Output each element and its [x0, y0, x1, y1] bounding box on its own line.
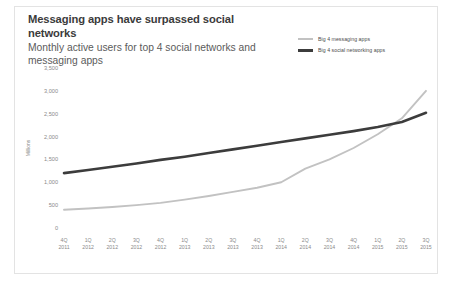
x-axis-tick-label: 4Q [157, 237, 164, 243]
y-axis-tick-label: 1,000 [44, 179, 58, 185]
chart-legend: Big 4 messaging appsBig 4 social network… [298, 36, 385, 53]
legend-item: Big 4 social networking apps [298, 47, 385, 53]
chart-title: Messaging apps have surpassed social net… [28, 12, 278, 40]
y-axis-tick-label: 1,500 [44, 156, 58, 162]
series-line [64, 113, 426, 173]
x-axis-tick-label: 4Q [350, 237, 357, 243]
legend-label: Big 4 messaging apps [318, 36, 370, 42]
x-axis-tick-label: 2015 [420, 244, 432, 250]
x-axis-tick-label: 2014 [324, 244, 336, 250]
x-axis-tick-label: 2014 [275, 244, 287, 250]
x-axis-tick-label: 1Q [181, 237, 188, 243]
series-line [64, 91, 426, 210]
x-axis-tick-label: 2013 [203, 244, 215, 250]
y-axis-tick-label: 500 [49, 202, 58, 208]
x-axis-tick-label: 2Q [109, 237, 116, 243]
line-chart-svg: 05001,0001,5002,0002,5003,0003,500Millio… [14, 60, 438, 274]
x-axis-tick-label: 2015 [396, 244, 408, 250]
legend-label: Big 4 social networking apps [318, 47, 385, 53]
chart-card: Messaging apps have surpassed social net… [0, 0, 450, 286]
legend-item: Big 4 messaging apps [298, 36, 385, 42]
y-axis-tick-label: 3,000 [44, 88, 58, 94]
x-axis-tick-label: 2Q [398, 237, 405, 243]
x-axis-tick-label: 2014 [348, 244, 360, 250]
x-axis-tick-label: 2011 [58, 244, 69, 250]
x-axis-tick-label: 2013 [251, 244, 263, 250]
legend-swatch-icon [298, 49, 313, 52]
x-axis-tick-label: 3Q [229, 237, 236, 243]
x-axis-tick-label: 2015 [372, 244, 384, 250]
x-axis-tick-label: 2Q [302, 237, 309, 243]
y-axis-tick-label: 0 [55, 225, 58, 231]
x-axis-tick-label: 2012 [106, 244, 118, 250]
x-axis-tick-label: 2012 [155, 244, 167, 250]
y-axis-tick-label: 2,500 [44, 111, 58, 117]
y-axis-title: Millions [25, 139, 31, 156]
x-axis-tick-label: 2Q [205, 237, 212, 243]
legend-swatch-icon [298, 38, 313, 40]
x-axis-tick-label: 3Q [326, 237, 333, 243]
x-axis-tick-label: 2013 [179, 244, 191, 250]
x-axis-tick-label: 4Q [61, 237, 68, 243]
chart-header: Messaging apps have surpassed social net… [28, 12, 278, 67]
plot-area: 05001,0001,5002,0002,5003,0003,500Millio… [14, 60, 438, 274]
x-axis-tick-label: 2012 [131, 244, 143, 250]
x-axis-tick-label: 2013 [227, 244, 239, 250]
x-axis-tick-label: 1Q [374, 237, 381, 243]
x-axis-tick-label: 2014 [300, 244, 312, 250]
y-axis-tick-label: 2,000 [44, 134, 58, 140]
x-axis-tick-label: 2012 [82, 244, 94, 250]
x-axis-tick-label: 4Q [254, 237, 261, 243]
x-axis-tick-label: 3Q [133, 237, 140, 243]
x-axis-tick-label: 1Q [278, 237, 285, 243]
x-axis-tick-label: 1Q [85, 237, 92, 243]
x-axis-tick-label: 3Q [423, 237, 430, 243]
y-axis-tick-label: 3,500 [44, 65, 58, 71]
